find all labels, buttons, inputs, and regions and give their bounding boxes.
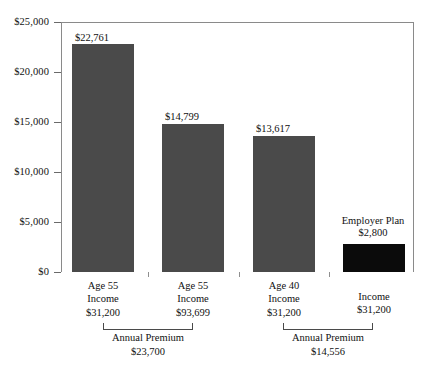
category-label-4-line2: $31,200	[314, 303, 432, 316]
x-axis-separator-1	[148, 272, 149, 277]
y-axis-tick-15000	[54, 122, 61, 123]
y-axis-label-25000: $25,000	[14, 17, 49, 28]
bar-value-label-4: Employer Plan $2,800	[303, 215, 432, 239]
bar-value-text-4: $2,800	[359, 227, 388, 238]
group-bracket-2-caption-line2: $14,556	[268, 345, 388, 359]
group-bracket-1-caption-line2: $23,700	[88, 345, 208, 359]
y-axis-label-0: $0	[38, 267, 49, 278]
bar-value-label-1: $22,761	[42, 32, 142, 44]
group-bracket-1-caption: Annual Premium $23,700	[88, 331, 208, 358]
x-axis-separator-3	[329, 272, 330, 277]
y-axis-tick-25000	[54, 22, 61, 23]
employer-plan-tag: Employer Plan	[303, 215, 432, 227]
bar-value-label-3: $13,617	[223, 123, 323, 135]
group-bracket-2	[283, 323, 373, 330]
category-label-4: Income $31,200	[314, 290, 432, 317]
bar-value-label-2: $14,799	[132, 111, 232, 123]
y-axis-tick-0	[54, 272, 61, 273]
category-label-4-line1: Income	[314, 290, 432, 303]
y-axis-label-10000: $10,000	[14, 167, 49, 178]
bar-age55-income-93699[interactable]	[162, 124, 224, 272]
bar-employer-plan[interactable]	[343, 244, 405, 272]
y-axis-label-15000: $15,000	[14, 117, 49, 128]
bar-age55-income-31200[interactable]	[72, 44, 134, 272]
group-bracket-1-caption-line1: Annual Premium	[88, 331, 208, 345]
group-bracket-2-caption: Annual Premium $14,556	[268, 331, 388, 358]
y-axis-label-5000: $5,000	[20, 217, 49, 228]
y-axis-tick-5000	[54, 222, 61, 223]
y-axis-tick-20000	[54, 72, 61, 73]
bar-age40-income-31200[interactable]	[253, 136, 315, 272]
y-axis-label-20000: $20,000	[14, 67, 49, 78]
group-bracket-2-caption-line1: Annual Premium	[268, 331, 388, 345]
y-axis-tick-10000	[54, 172, 61, 173]
bar-chart: $25,000 $20,000 $15,000 $10,000 $5,000 $…	[0, 0, 432, 370]
group-bracket-1	[103, 323, 193, 330]
x-axis-separator-2	[239, 272, 240, 277]
